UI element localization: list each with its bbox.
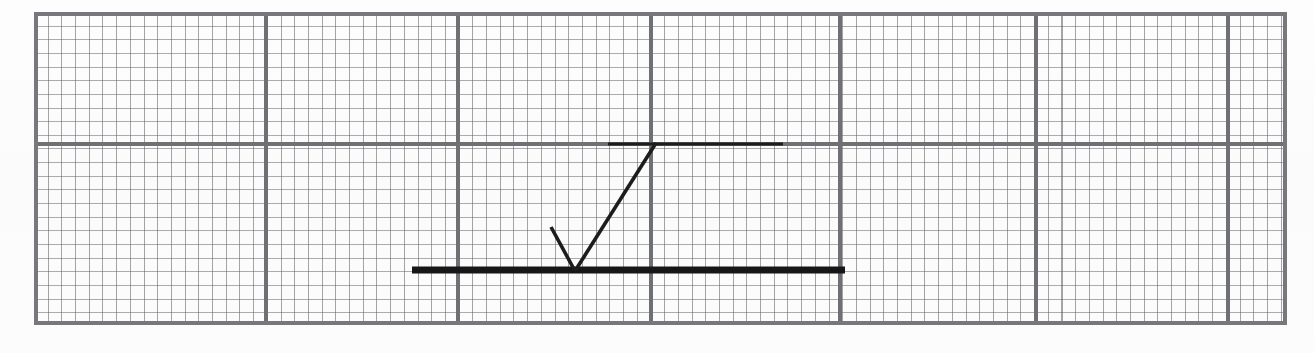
graph-paper-grid <box>34 12 1287 325</box>
minor-gridlines <box>34 12 1287 325</box>
major-vertical-gridline <box>838 12 842 325</box>
grid-border-right <box>1283 12 1287 325</box>
major-vertical-gridline <box>1034 12 1038 325</box>
grid-border-bottom <box>34 321 1287 325</box>
grid-border-top <box>34 12 1287 16</box>
major-vertical-gridline <box>264 12 268 325</box>
scanned-page <box>0 0 1314 353</box>
major-vertical-gridline <box>649 12 653 325</box>
major-vertical-gridline <box>1226 12 1230 325</box>
grid-border-left <box>34 12 38 325</box>
major-horizontal-gridline <box>34 142 1287 146</box>
major-vertical-gridline <box>456 12 460 325</box>
